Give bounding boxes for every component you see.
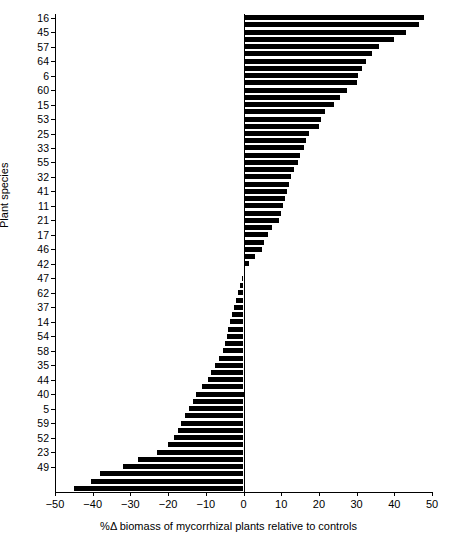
x-axis-tick-label: 0 [224,498,264,510]
y-axis-tick [51,206,55,207]
bar [244,218,280,223]
bar [244,232,269,237]
y-axis-tick-label: 46 [19,244,49,254]
bar [181,421,243,426]
y-axis-tick-label: 17 [19,230,49,240]
y-axis-tick-label: 23 [19,447,49,457]
y-axis-tick [51,162,55,163]
y-axis-tick [51,293,55,294]
y-axis-tick [51,394,55,395]
bar [240,283,244,288]
y-axis-tick [51,438,55,439]
y-axis-tick [51,119,55,120]
y-axis-tick-label: 25 [19,129,49,139]
y-axis-tick [51,423,55,424]
bar [244,160,299,165]
y-axis-tick-label: 37 [19,302,49,312]
y-axis-tick [51,177,55,178]
y-axis-tick-label: 42 [19,259,49,269]
bar [219,356,244,361]
bar [215,363,243,368]
bar [244,203,284,208]
bar [244,153,301,158]
bar [174,435,244,440]
y-axis-tick-label: 32 [19,172,49,182]
y-axis-tick [51,264,55,265]
y-axis-tick [51,235,55,236]
bar [168,442,243,447]
y-axis-tick [51,220,55,221]
bar [202,384,243,389]
x-axis-tick-label: −30 [110,498,150,510]
y-axis-tick-label: 59 [19,418,49,428]
bar [123,464,244,469]
bar [244,95,340,100]
y-axis-tick-label: 45 [19,27,49,37]
bar [244,196,285,201]
bar [91,479,244,484]
bar [230,319,243,324]
x-axis-tick [432,492,433,496]
bar [232,312,243,317]
bar [244,174,291,179]
bar [234,305,243,310]
y-axis-tick [51,336,55,337]
bar [185,413,243,418]
bar [244,109,325,114]
bar [138,457,244,462]
bar [244,167,295,172]
y-axis-tick-label: 15 [19,100,49,110]
bar [244,131,310,136]
bar [244,66,363,71]
y-axis-tick-label: 44 [19,375,49,385]
zero-reference-line [244,14,245,492]
bar [244,30,406,35]
y-axis-tick [51,249,55,250]
bar [193,399,244,404]
bar [211,370,243,375]
y-axis-title-label: Plant species [0,108,10,228]
bar [74,486,244,491]
y-axis-tick-label: 58 [19,346,49,356]
bar [244,37,395,42]
y-axis-tick [51,452,55,453]
y-axis-tick [51,409,55,410]
bar [238,290,244,295]
y-axis-tick-label: 35 [19,360,49,370]
y-axis-tick-label: 6 [19,71,49,81]
y-axis-tick [51,105,55,106]
y-axis-tick [51,76,55,77]
bar [244,225,272,230]
bar [244,182,289,187]
y-axis-tick [51,191,55,192]
bar [244,88,348,93]
plot-area: 1645576466015532533553241112117464247623… [55,14,432,492]
y-axis-tick-label: 57 [19,42,49,52]
x-axis-tick-label: 50 [412,498,452,510]
x-axis-tick-label: 10 [261,498,301,510]
bar [244,269,246,274]
bar [244,102,334,107]
y-axis-tick [51,134,55,135]
bar [244,80,357,85]
figure-panel: 1645576466015532533553241112117464247623… [0,0,457,544]
y-axis-tick-label: 47 [19,273,49,283]
y-axis-tick [51,380,55,381]
bar [189,406,244,411]
x-axis-tick [55,492,56,496]
x-axis-tick-label: −20 [148,498,188,510]
y-axis-tick-label: 40 [19,389,49,399]
bar [244,247,263,252]
x-axis-tick [168,492,169,496]
y-axis-title: Plant species [0,108,10,228]
bar [244,59,367,64]
y-axis-tick-label: 5 [19,404,49,414]
y-axis-tick-label: 64 [19,56,49,66]
y-axis-tick-label: 62 [19,288,49,298]
bar [227,334,244,339]
bar [244,22,419,27]
bar [244,44,380,49]
x-axis-tick-label: −40 [73,498,113,510]
y-axis-tick [51,278,55,279]
bar [244,240,265,245]
